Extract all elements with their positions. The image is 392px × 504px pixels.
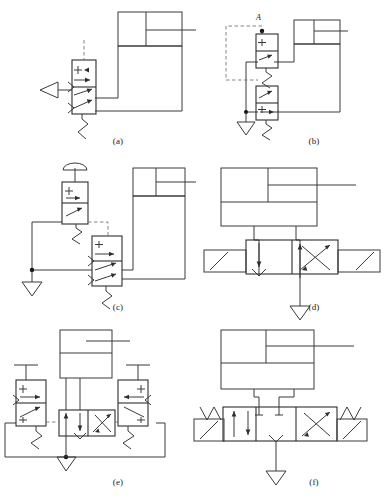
right-valve-e [118,365,151,426]
spring-f-left [200,407,221,420]
cylinder-d [221,168,356,226]
valve-f [223,407,337,471]
panel-e: (e) [0,325,196,504]
exhaust-f [266,471,286,485]
panel-a: (a) [0,0,196,160]
roller-actuator-left-e[interactable] [14,365,38,380]
valve-a-cell-lower [74,89,92,108]
end-cap-right-d[interactable] [338,250,380,272]
lower-valve-b [256,86,278,120]
piping-d [254,226,300,278]
panel-f: (f) [196,325,392,504]
spring-f-right [340,407,361,420]
button-valve-c [62,163,88,224]
panel-d: (d) [196,160,392,325]
roller-actuator-right-e[interactable] [126,365,150,380]
main-valve-c [88,236,122,286]
piping-f [254,389,294,407]
exhaust-c [22,270,42,296]
valve-f-cell-right [302,412,330,437]
valve-f-cell-centre [255,407,283,471]
valve-d-cell-right [300,245,330,271]
spring-a [78,114,88,139]
cylinder-a [118,12,196,46]
caption-b: (b) [294,136,334,146]
piping-a [95,46,182,111]
lever-actuator-a[interactable] [40,82,72,98]
panel-c-schematic [0,160,196,325]
caption-d: (d) [294,302,334,312]
end-cap-right-f[interactable] [337,419,367,441]
centre-valve-e [59,410,115,457]
caption-c: (c) [98,302,138,312]
end-cap-left-d[interactable] [204,250,246,272]
valve-d [246,240,338,306]
piping-c [30,196,185,279]
caption-e: (e) [98,477,138,487]
panel-d-schematic [196,160,392,325]
spring-e-right [123,426,134,449]
left-valve-e [13,365,46,426]
cylinder-b [294,20,348,44]
piping-b [244,29,340,114]
cylinder-f [221,330,354,389]
cylinder-e [60,330,130,378]
diagram-sheet: (a) [0,0,392,504]
caption-a: (a) [98,136,138,146]
spring-c-upper [72,224,82,244]
pilot-line-c [88,222,108,236]
cylinder-c [133,168,196,196]
valve-a-cell-upper [74,66,90,82]
spring-b-lower [262,120,272,140]
caption-f: (f) [294,477,334,487]
mushroom-button-c[interactable] [63,163,87,182]
panel-c: (c) [0,160,196,325]
end-cap-left-f[interactable] [194,419,224,441]
spring-e-left [31,426,42,449]
panel-b: A (b) [196,0,392,160]
port-label-a: A [255,13,261,22]
valve-a [68,60,96,114]
exhaust-b [237,112,255,135]
spring-b-upper [262,68,272,88]
valve-f-cell-left [232,411,251,437]
